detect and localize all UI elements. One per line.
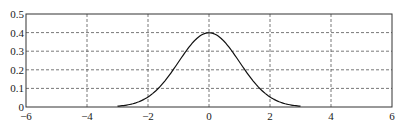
y-tick-label: 0.4 xyxy=(10,27,24,39)
y-tick-label: 0.5 xyxy=(10,8,24,20)
x-tick-label: 0 xyxy=(206,110,212,122)
grid-lines xyxy=(26,14,392,107)
x-tick-label: 6 xyxy=(389,110,395,122)
chart: −6−4−20246 00.10.20.30.40.5 xyxy=(0,0,402,133)
x-tick-label: −2 xyxy=(142,110,154,122)
y-axis-ticks: 00.10.20.30.40.5 xyxy=(10,8,24,113)
y-tick-label: 0.3 xyxy=(10,45,24,57)
x-tick-label: −4 xyxy=(81,110,93,122)
y-tick-label: 0 xyxy=(19,101,25,113)
x-tick-label: 2 xyxy=(267,110,273,122)
y-tick-label: 0.2 xyxy=(10,64,24,76)
x-axis-ticks: −6−4−20246 xyxy=(20,110,395,122)
x-tick-label: 4 xyxy=(328,110,334,122)
y-tick-label: 0.1 xyxy=(10,82,24,94)
